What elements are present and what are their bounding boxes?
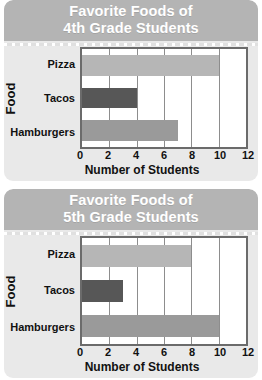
category-label-tacos: Tacos [44, 285, 75, 296]
bar-tacos [82, 280, 123, 302]
x-tick-label-0: 0 [77, 150, 83, 161]
y-axis-title-text: Food [4, 82, 19, 114]
chart-card-5th-grade: Favorite Foods of 5th Grade Students Foo… [4, 189, 258, 378]
x-tick-label-6: 6 [161, 150, 167, 161]
chart-card-4th-grade: Favorite Foods of 4th Grade Students Foo… [4, 0, 258, 181]
plot-area-5th-grade [80, 236, 248, 346]
bar-hamburgers [82, 315, 219, 337]
bar-tacos [82, 88, 137, 109]
x-tick-label-2: 2 [105, 150, 111, 161]
x-tick-label-12: 12 [242, 150, 254, 161]
bar-pizza [82, 245, 191, 267]
bars-5th [82, 238, 246, 344]
plot-area-4th-grade [80, 47, 248, 149]
x-tick-label-10: 10 [214, 150, 226, 161]
chart-title-5th-grade: Favorite Foods of 5th Grade Students [4, 189, 258, 230]
bar-row-pizza [82, 55, 246, 76]
category-label-tacos: Tacos [44, 93, 75, 104]
x-tick-label-4: 4 [133, 150, 139, 161]
bars-4th [82, 49, 246, 147]
chart-title-4th-grade: Favorite Foods of 4th Grade Students [4, 0, 258, 41]
chart-body-5th-grade: Food Pizza Tacos Hamburgers [4, 236, 258, 378]
x-tick-label-8: 8 [189, 347, 195, 358]
x-axis-ticks-4th: 024681012 [80, 149, 248, 164]
category-label-pizza: Pizza [47, 59, 75, 70]
x-tick-label-10: 10 [214, 347, 226, 358]
x-tick-label-12: 12 [242, 347, 254, 358]
chart-body-4th-grade: Food Pizza Tacos Hamburgers [4, 47, 258, 181]
category-label-hamburgers: Hamburgers [10, 322, 75, 333]
x-axis-title-5th: Number of Students [18, 361, 248, 378]
x-axis-ticks-5th: 024681012 [80, 346, 248, 361]
chart-title-line-2: 5th Grade Students [10, 209, 252, 226]
category-label-hamburgers: Hamburgers [10, 127, 75, 138]
bar-row-hamburgers [82, 315, 246, 337]
chart-title-line-1: Favorite Foods of [10, 192, 252, 209]
category-label-pizza: Pizza [47, 249, 75, 260]
category-labels-5th: Pizza Tacos Hamburgers [18, 236, 80, 346]
y-axis-title-text: Food [4, 275, 19, 307]
bar-row-hamburgers [82, 120, 246, 141]
x-tick-label-8: 8 [189, 150, 195, 161]
category-labels-4th: Pizza Tacos Hamburgers [18, 47, 80, 149]
x-tick-label-2: 2 [105, 347, 111, 358]
bar-hamburgers [82, 120, 178, 141]
bar-row-tacos [82, 280, 246, 302]
chart-page: Favorite Foods of 4th Grade Students Foo… [0, 0, 262, 380]
x-tick-label-4: 4 [133, 347, 139, 358]
bar-pizza [82, 55, 219, 76]
bar-row-tacos [82, 88, 246, 109]
x-tick-label-0: 0 [77, 347, 83, 358]
x-axis-title-4th: Number of Students [18, 164, 248, 181]
chart-title-line-2: 4th Grade Students [10, 20, 252, 37]
bar-row-pizza [82, 245, 246, 267]
x-tick-label-6: 6 [161, 347, 167, 358]
chart-title-line-1: Favorite Foods of [10, 3, 252, 20]
